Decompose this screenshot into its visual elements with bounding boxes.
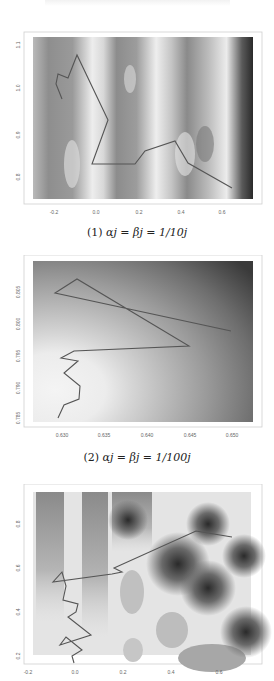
- y-tick-4: 1.1: [15, 41, 21, 48]
- x-tick-2: 0.0: [72, 669, 79, 675]
- contour-plot-3: 0.2 0.4 0.6 0.8 -0.2 0.0 0.2 0.4 0.6: [0, 484, 274, 681]
- y-tick-5: 0.805: [15, 286, 21, 299]
- caption-1-label: (1): [87, 226, 103, 239]
- x-tick-1: 0.630: [56, 432, 69, 438]
- caption-1-math: αj = βj = 1/10j: [106, 226, 187, 239]
- x-tick-1: -0.2: [24, 669, 33, 675]
- y-tick-1: 0.8: [15, 173, 21, 180]
- x-tick-2: 0.0: [93, 209, 100, 214]
- y-tick-1: 0.2: [15, 652, 21, 659]
- cropped-header-text: [45, 0, 230, 6]
- caption-1: (1) αj = βj = 1/10j: [0, 226, 274, 239]
- x-tick-3: 0.640: [141, 432, 154, 438]
- y-tick-3: 0.6: [15, 564, 21, 571]
- x-tick-4: 0.4: [178, 209, 185, 214]
- x-tick-2: 0.635: [98, 432, 111, 438]
- y-tick-4: 0.8: [15, 520, 21, 527]
- y-tick-1: 0.785: [15, 412, 21, 425]
- caption-2: (2) αj = βj = 1/100j: [0, 451, 274, 464]
- x-tick-3: 0.2: [136, 209, 143, 214]
- contour-plot-2: 0.785 0.790 0.795 0.800 0.805 0.630 0.63…: [0, 255, 274, 440]
- x-tick-4: 0.4: [168, 669, 175, 675]
- y-tick-4: 0.800: [15, 318, 21, 331]
- x-tick-1: -0.2: [50, 209, 59, 214]
- x-tick-5: 0.650: [226, 432, 239, 438]
- contour-plot-2-svg: 0.785 0.790 0.795 0.800 0.805 0.630 0.63…: [0, 255, 274, 440]
- y-tick-2: 0.9: [15, 131, 21, 138]
- x-tick-4: 0.645: [184, 432, 197, 438]
- contour-plot-1: 0.8 0.9 1.0 1.1 -0.2 0.0 0.2 0.4 0.6: [0, 24, 274, 214]
- contour-plot-3-svg: 0.2 0.4 0.6 0.8 -0.2 0.0 0.2 0.4 0.6: [0, 484, 274, 681]
- x-tick-5: 0.6: [219, 209, 226, 214]
- y-tick-2: 0.4: [15, 608, 21, 615]
- contour-plot-1-svg: 0.8 0.9 1.0 1.1 -0.2 0.0 0.2 0.4 0.6: [0, 24, 274, 214]
- x-tick-3: 0.2: [120, 669, 127, 675]
- caption-2-label: (2): [83, 451, 99, 464]
- y-tick-3: 0.795: [15, 350, 21, 363]
- caption-2-math: αj = βj = 1/100j: [102, 451, 190, 464]
- y-tick-3: 1.0: [15, 84, 21, 91]
- x-tick-5: 0.6: [216, 669, 223, 675]
- y-tick-2: 0.790: [15, 382, 21, 395]
